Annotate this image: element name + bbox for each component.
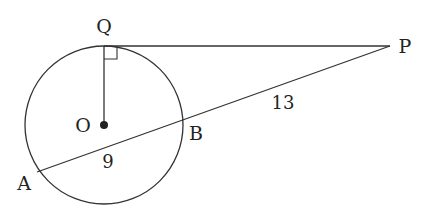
measure-bp: 13	[272, 92, 295, 113]
label-o: O	[75, 114, 91, 136]
label-p: P	[399, 35, 412, 57]
label-q: Q	[96, 15, 112, 37]
label-b: B	[189, 122, 203, 144]
geometry-diagram: Q O P A B 9 13	[0, 0, 424, 209]
secant-line-ap	[37, 46, 390, 172]
right-angle-marker	[104, 46, 117, 59]
measure-ab: 9	[102, 151, 113, 172]
label-a: A	[16, 172, 31, 194]
center-point-o	[100, 121, 108, 129]
